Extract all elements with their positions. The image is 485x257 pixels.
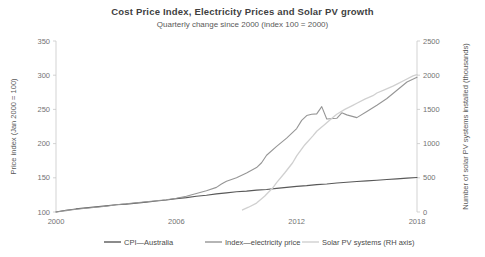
right-axis-group: 05001000150020002500 Number of solar PV …	[417, 37, 470, 217]
left-tick-label: 100	[37, 208, 50, 217]
right-axis-title: Number of solar PV systems installed (th…	[461, 43, 470, 210]
right-tick-label: 1500	[423, 105, 440, 114]
left-axis-group: 100150200250300350 Price index (Jan 2000…	[9, 37, 56, 217]
data-series-group	[56, 75, 417, 212]
left-axis-ticks: 100150200250300350	[37, 37, 56, 217]
x-tick-label: 2000	[48, 217, 65, 226]
legend-label-1: Index—electricity price	[225, 238, 300, 247]
right-tick-label: 2000	[423, 71, 440, 80]
right-tick-label: 1000	[423, 139, 440, 148]
x-axis-group: 2000200620122018	[48, 217, 426, 226]
series-line-0	[56, 177, 417, 212]
x-tick-label: 2006	[168, 217, 185, 226]
right-axis-ticks: 05001000150020002500	[417, 37, 440, 217]
chart-container: Cost Price Index, Electricity Prices and…	[0, 0, 485, 257]
left-tick-label: 150	[37, 173, 50, 182]
right-tick-label: 0	[423, 208, 427, 217]
x-tick-label: 2018	[409, 217, 426, 226]
left-axis-title: Price index (Jan 2000 = 100)	[9, 78, 18, 175]
right-tick-label: 500	[423, 173, 436, 182]
right-tick-label: 2500	[423, 37, 440, 46]
left-tick-label: 300	[37, 71, 50, 80]
legend-label-2: Solar PV systems (RH axis)	[322, 238, 415, 247]
left-tick-label: 200	[37, 139, 50, 148]
chart-legend: CPI—AustraliaIndex—electricity priceSola…	[104, 238, 415, 247]
x-axis-ticks: 2000200620122018	[48, 217, 426, 226]
left-tick-label: 350	[37, 37, 50, 46]
legend-label-0: CPI—Australia	[124, 238, 174, 247]
left-tick-label: 250	[37, 105, 50, 114]
x-tick-label: 2012	[288, 217, 305, 226]
chart-plot-svg: 100150200250300350 Price index (Jan 2000…	[0, 0, 485, 257]
